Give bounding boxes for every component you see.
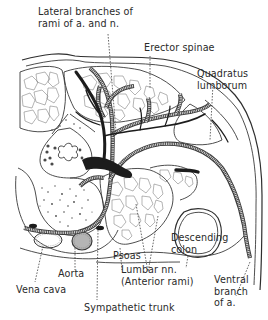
spinal-cord xyxy=(58,143,77,161)
aorta xyxy=(72,232,92,250)
label-lumbar-nn: Lumbar nn. (Anterior rami) xyxy=(121,264,194,287)
label-quadratus-lumborum: Quadratus lumborum xyxy=(197,68,248,91)
label-descending-colon: Descending colon xyxy=(171,232,228,255)
sympathetic-ganglion-right xyxy=(96,226,104,230)
posterior-parietal-line xyxy=(96,262,180,263)
label-psoas: Psoas xyxy=(113,250,141,262)
label-lateral-branches: Lateral branches of rami of a. and n. xyxy=(38,6,133,29)
nerve-segment-colon xyxy=(176,170,198,172)
lumbar-artery xyxy=(24,68,250,258)
label-ventral-branch: Ventral branch of a. xyxy=(214,274,249,309)
label-aorta: Aorta xyxy=(58,268,84,280)
label-erector-spinae: Erector spinae xyxy=(144,42,215,54)
label-sympathetic-trunk: Sympathetic trunk xyxy=(84,302,175,314)
label-vena-cava: Vena cava xyxy=(16,284,66,296)
